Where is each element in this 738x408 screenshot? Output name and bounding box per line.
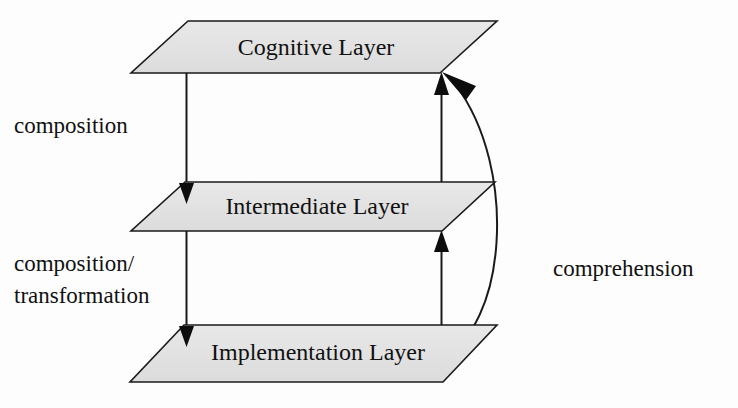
diagram-canvas: Cognitive Layer Intermediate Layer Imple… xyxy=(0,0,738,408)
edge-label-composition-transformation-line2: transformation xyxy=(14,283,150,308)
arrowhead-arc-cognitive xyxy=(442,72,476,100)
layer-cognitive[interactable]: Cognitive Layer xyxy=(131,21,497,73)
layer-intermediate-label: Intermediate Layer xyxy=(225,193,408,219)
edge-label-composition: composition xyxy=(14,113,128,138)
layered-architecture-diagram: Cognitive Layer Intermediate Layer Imple… xyxy=(0,0,738,408)
arrowhead-up-intermediate xyxy=(434,230,449,252)
layer-implementation-label: Implementation Layer xyxy=(211,339,425,365)
edge-label-composition-transformation-line1: composition/ xyxy=(14,251,135,276)
edge-label-comprehension: comprehension xyxy=(553,256,694,281)
layer-cognitive-label: Cognitive Layer xyxy=(238,34,395,60)
